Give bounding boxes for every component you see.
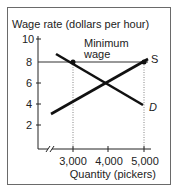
y-tick-label: 4	[26, 98, 32, 110]
y-axis-title: Wage rate (dollars per hour)	[12, 18, 149, 30]
demand-label: D	[149, 101, 157, 113]
point-5000-8	[142, 60, 147, 65]
x-tick-label: 5,000	[131, 155, 159, 167]
x-axis-title: Quantity (pickers)	[70, 168, 156, 180]
chart-svg: Wage rate (dollars per hour) 10 8 6 4 2 …	[0, 0, 179, 193]
y-tick-label: 2	[26, 119, 32, 131]
minimum-wage-label-2: wage	[83, 48, 110, 60]
y-tick-label: 8	[26, 56, 32, 68]
point-3000-8	[71, 60, 76, 65]
x-tick-label: 3,000	[59, 155, 87, 167]
supply-label: S	[151, 53, 158, 65]
y-tick-label: 6	[26, 77, 32, 89]
y-tick-label: 10	[22, 33, 34, 45]
supply-curve	[51, 59, 148, 114]
x-tick-label: 4,000	[95, 155, 123, 167]
